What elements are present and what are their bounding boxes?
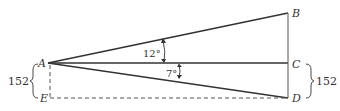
triangulation-diagram: 12° 7° A B C D E 152 152	[0, 0, 340, 111]
point-label-D: D	[291, 92, 301, 105]
angle-label-upper: 12°	[143, 48, 161, 59]
left-dimension-label: 152	[8, 75, 29, 88]
angle-label-lower: 7°	[166, 68, 177, 79]
diagram-canvas: 12° 7° A B C D E 152 152	[0, 0, 340, 111]
point-label-A: A	[37, 57, 46, 70]
point-label-C: C	[292, 58, 301, 71]
left-brace-icon	[30, 64, 38, 98]
angle-arc-12	[163, 40, 165, 62]
right-brace-icon	[306, 64, 314, 98]
right-dimension-label: 152	[316, 75, 337, 88]
line-AB	[48, 13, 288, 63]
point-label-B: B	[291, 7, 300, 20]
arrowhead-icon	[177, 75, 182, 79]
point-label-E: E	[39, 92, 48, 105]
